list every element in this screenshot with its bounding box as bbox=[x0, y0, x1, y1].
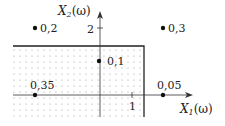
point-label-0-2: 0,2 bbox=[40, 22, 58, 35]
point-label-0-35: 0,35 bbox=[30, 79, 55, 92]
point-label-0-1: 0,1 bbox=[107, 55, 125, 68]
point-0-35 bbox=[33, 93, 37, 97]
x-tick-label: 1 bbox=[129, 100, 136, 113]
point-label-0-3: 0,3 bbox=[168, 22, 186, 35]
point-0-3 bbox=[161, 26, 165, 30]
x-axis-label: X1(ω) bbox=[179, 102, 213, 117]
diagram-canvas: 1 2 X1(ω) X2(ω) 0,2 0,3 0,1 0,35 0,05 bbox=[0, 0, 225, 126]
y-axis-label: X2(ω) bbox=[57, 4, 91, 19]
point-label-0-05: 0,05 bbox=[157, 79, 182, 92]
y-tick-label: 2 bbox=[87, 23, 94, 36]
point-0-1 bbox=[97, 59, 101, 63]
point-0-05 bbox=[161, 93, 165, 97]
point-0-2 bbox=[33, 26, 37, 30]
